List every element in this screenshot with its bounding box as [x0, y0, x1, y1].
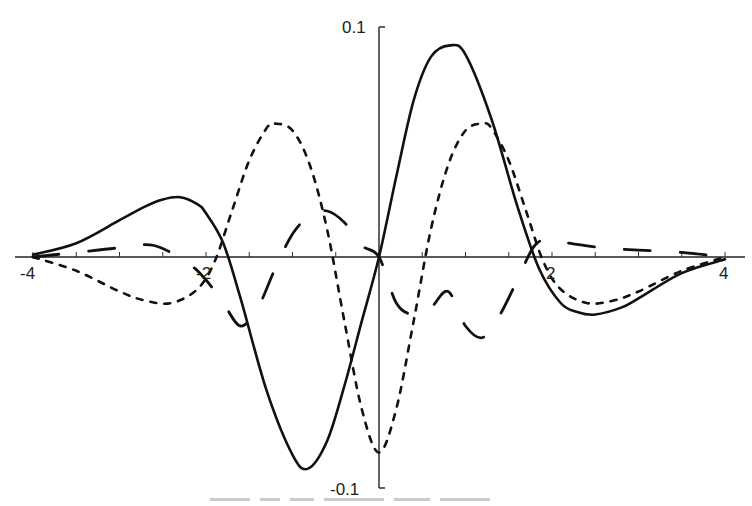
chart-canvas — [0, 0, 752, 506]
x-tick-label-neg4: -4 — [20, 265, 35, 282]
y-tick-label-bottom: -0.1 — [330, 481, 359, 498]
cropped-caption — [210, 498, 550, 506]
y-tick-label-top: 0.1 — [342, 19, 366, 36]
x-tick-label-2: 2 — [546, 265, 555, 282]
x-tick-label-neg2: -2 — [196, 265, 211, 282]
x-tick-label-4: 4 — [719, 265, 728, 282]
